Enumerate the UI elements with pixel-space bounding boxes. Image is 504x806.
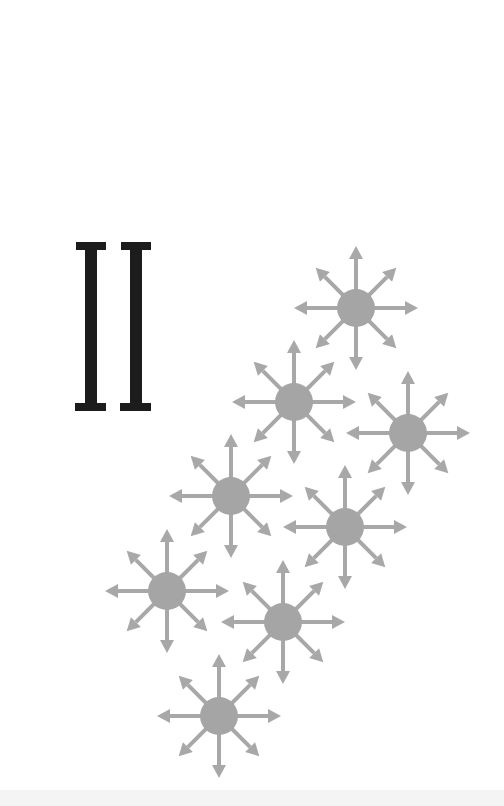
arrow-head-icon	[405, 301, 418, 315]
particle-5	[283, 465, 407, 589]
arrow-head-icon	[157, 709, 170, 723]
arrow-head-icon	[349, 246, 363, 259]
arrow-head-icon	[160, 640, 174, 653]
arrow-head-icon	[401, 371, 415, 384]
arrow-head-icon	[224, 545, 238, 558]
arrow-head-icon	[287, 340, 301, 353]
arrow-head-icon	[232, 395, 245, 409]
arrow-head-icon	[401, 482, 415, 495]
arrow-head-icon	[212, 654, 226, 667]
particle-7	[221, 560, 345, 684]
roman-numeral-label-ii	[75, 242, 151, 411]
particle-1	[294, 246, 418, 370]
particle-3	[346, 371, 470, 495]
arrow-head-icon	[216, 584, 229, 598]
particle-core	[264, 603, 302, 641]
roman-numeral-stroke-1	[75, 242, 106, 411]
arrow-head-icon	[294, 301, 307, 315]
particle-8	[157, 654, 281, 778]
particle-core	[200, 697, 238, 735]
arrow-head-icon	[280, 489, 293, 503]
arrow-head-icon	[276, 560, 290, 573]
arrow-head-icon	[276, 671, 290, 684]
particle-core	[326, 508, 364, 546]
particle-4	[169, 434, 293, 558]
arrow-head-icon	[169, 489, 182, 503]
arrow-head-icon	[346, 426, 359, 440]
particle-core	[212, 477, 250, 515]
arrow-head-icon	[349, 357, 363, 370]
arrow-head-icon	[283, 520, 296, 534]
arrow-head-icon	[160, 529, 174, 542]
particle-core	[275, 383, 313, 421]
roman-numeral-stroke-2	[120, 242, 151, 411]
arrow-head-icon	[338, 465, 352, 478]
arrow-head-icon	[457, 426, 470, 440]
arrow-head-icon	[212, 765, 226, 778]
arrow-head-icon	[224, 434, 238, 447]
arrow-head-icon	[268, 709, 281, 723]
arrow-head-icon	[332, 615, 345, 629]
arrow-head-icon	[221, 615, 234, 629]
particle-core	[337, 289, 375, 327]
particle-6	[105, 529, 229, 653]
arrow-head-icon	[394, 520, 407, 534]
arrow-head-icon	[287, 451, 301, 464]
particle-core	[148, 572, 186, 610]
diagram-canvas	[0, 0, 504, 806]
arrow-head-icon	[343, 395, 356, 409]
arrow-head-icon	[105, 584, 118, 598]
particle-2	[232, 340, 356, 464]
particle-core	[389, 414, 427, 452]
arrow-head-icon	[338, 576, 352, 589]
particle-group	[105, 246, 470, 778]
